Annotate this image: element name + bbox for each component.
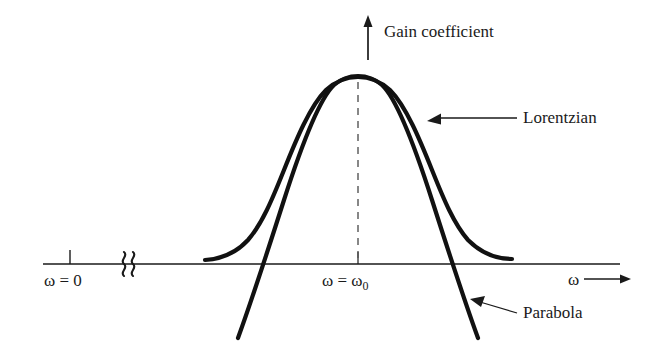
- parabola-leader-arrow-icon: [470, 296, 517, 313]
- figure-canvas: [0, 0, 649, 350]
- x-axis-label-omega-zero: ω = 0: [44, 272, 82, 289]
- y-axis-arrow-icon: [364, 15, 373, 60]
- lorentzian-curve: [205, 77, 512, 260]
- omega-center-subscript: 0: [362, 279, 368, 293]
- x-axis-variable-label: ω: [568, 271, 579, 288]
- y-axis-title: Gain coefficient: [384, 23, 494, 40]
- gain-coefficient-figure: Gain coefficient Lorentzian Parabola ω =…: [0, 0, 649, 350]
- lorentzian-annotation-label: Lorentzian: [523, 109, 597, 126]
- parabola-curve: [238, 76, 478, 338]
- omega-center-prefix: ω = ω: [322, 271, 362, 290]
- parabola-annotation-label: Parabola: [523, 304, 582, 321]
- x-axis-label-omega-center: ω = ω0: [322, 272, 368, 292]
- lorentzian-leader-arrow-icon: [427, 114, 517, 125]
- omega-axis-arrow-icon: [584, 275, 631, 284]
